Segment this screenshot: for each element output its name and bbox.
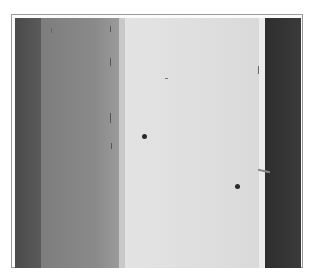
scratch-mark [51, 28, 52, 33]
scratch-mark [110, 26, 111, 32]
scratch-mark [111, 143, 112, 149]
scratch-mark [110, 58, 111, 66]
scratch-mark [110, 113, 111, 123]
dark-left-band [15, 18, 41, 268]
small-mark [165, 78, 168, 79]
photo [15, 18, 301, 268]
mid-gray-band [41, 18, 119, 268]
light-center-band [125, 18, 259, 268]
dark-right-band [265, 18, 301, 268]
edge-mark [258, 66, 259, 74]
dark-spot [142, 134, 147, 139]
dark-spot [235, 184, 240, 189]
